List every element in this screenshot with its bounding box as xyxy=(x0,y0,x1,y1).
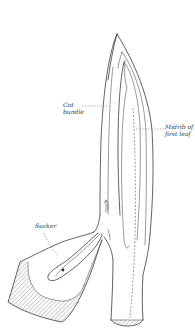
seedling-drawing xyxy=(0,0,195,335)
leader-lines xyxy=(44,106,165,256)
first-leaf xyxy=(122,60,141,318)
cot-bundle-label-line2: bundle xyxy=(63,109,84,116)
sucker-label-text: Sucker xyxy=(35,223,56,230)
midrib-label-line2: first leaf xyxy=(165,131,193,138)
seedling-diagram: Cot bundle Midrib of first leaf Sucker xyxy=(0,0,195,335)
sucker xyxy=(8,232,102,322)
sucker-dot-marker xyxy=(62,269,65,272)
hypocotyl xyxy=(104,230,150,326)
cot-bundle-label: Cot bundle xyxy=(63,102,84,115)
midrib-label: Midrib of first leaf xyxy=(165,124,193,137)
junction xyxy=(94,200,108,232)
sucker-label: Sucker xyxy=(35,223,56,230)
